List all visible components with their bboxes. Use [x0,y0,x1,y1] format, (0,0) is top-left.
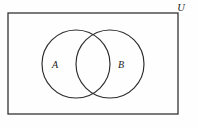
venn-diagram-figure: U A B [0,0,198,128]
set-a-label: A [51,59,59,70]
universe-rectangle [8,13,178,114]
set-b-label: B [118,59,124,70]
universe-label: U [177,2,186,13]
venn-diagram-canvas: U A B [0,0,198,128]
